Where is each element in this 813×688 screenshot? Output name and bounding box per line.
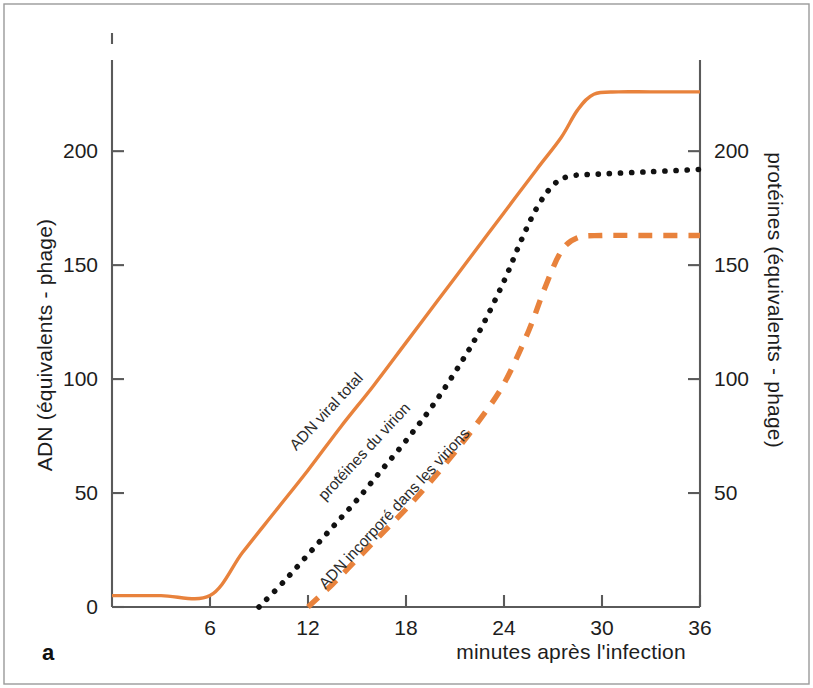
left-tick-label: 0 — [86, 595, 98, 618]
right-tick-label: 150 — [714, 253, 749, 276]
axis-spines — [112, 60, 700, 607]
left-axis-tickmarks — [112, 33, 124, 607]
bottom-tick-label: 6 — [204, 616, 216, 639]
figure-panel: 050100150200 50100150200 61218243036 ADN… — [0, 0, 813, 688]
bottom-tick-label: 18 — [394, 616, 417, 639]
bottom-tick-label: 36 — [688, 616, 711, 639]
right-axis-label: protéines (équivalents - phage) — [764, 152, 787, 448]
right-axis-tick-labels: 50100150200 — [714, 139, 749, 504]
series-line-adn-incorpor-dans-les-virions — [308, 235, 700, 607]
panel-letter: a — [42, 640, 55, 665]
right-tick-label: 50 — [714, 481, 737, 504]
data-series-group — [112, 92, 700, 607]
left-axis-label: ADN (équivalents - phage) — [33, 219, 56, 471]
bottom-tick-label: 12 — [296, 616, 319, 639]
x-axis-label: minutes après l'infection — [456, 640, 686, 663]
right-axis-tickmarks — [688, 151, 700, 493]
left-tick-label: 100 — [63, 367, 98, 390]
bottom-axis-tickmarks — [210, 595, 700, 607]
bottom-tick-label: 30 — [590, 616, 613, 639]
left-tick-label: 200 — [63, 139, 98, 162]
bottom-axis-tick-labels: 61218243036 — [204, 616, 712, 639]
series-annotations: ADN viral totalprotéines du virionADN in… — [286, 369, 473, 592]
right-tick-label: 200 — [714, 139, 749, 162]
chart-canvas: 050100150200 50100150200 61218243036 ADN… — [0, 0, 813, 688]
series-line-adn-viral-total — [112, 92, 700, 599]
bottom-tick-label: 24 — [492, 616, 516, 639]
left-axis-tick-labels: 050100150200 — [63, 139, 98, 618]
left-tick-label: 50 — [75, 481, 98, 504]
left-tick-label: 150 — [63, 253, 98, 276]
annotation-adn-incorpore: ADN incorporé dans les virions — [315, 424, 473, 591]
right-tick-label: 100 — [714, 367, 749, 390]
series-line-prot-ines-du-virion — [259, 169, 700, 607]
